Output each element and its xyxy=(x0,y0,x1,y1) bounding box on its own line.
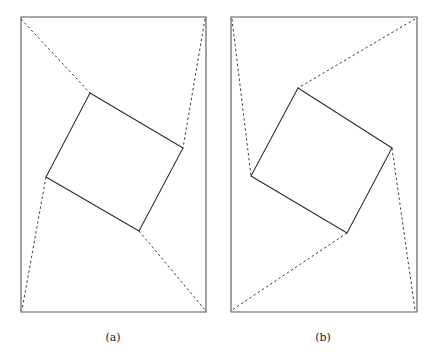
figure-container: (a) (b) xyxy=(0,0,438,358)
panel-a: (a) xyxy=(21,17,206,344)
panel-a-caption: (a) xyxy=(105,331,120,344)
panel-b-caption: (b) xyxy=(315,331,331,344)
panel-b-fold-top-left xyxy=(232,19,251,176)
panel-a-fold-bottom-left xyxy=(22,177,46,310)
panel-a-fold-bottom-right xyxy=(139,231,205,310)
panel-a-inscribed-square xyxy=(46,93,183,231)
panel-a-fold-top-right xyxy=(183,19,205,148)
panel-b-fold-top-right xyxy=(298,19,415,88)
panel-a-fold-top-left xyxy=(21,19,90,93)
panel-b-fold-bottom-right xyxy=(392,148,415,310)
panel-b-fold-bottom-left xyxy=(232,233,347,310)
figure-canvas: (a) (b) xyxy=(0,0,438,358)
panel-b-paper-sheet-outline xyxy=(231,17,417,312)
panel-a-paper-sheet-outline xyxy=(21,17,206,312)
panel-b-inscribed-square xyxy=(251,88,392,233)
panel-b: (b) xyxy=(231,17,417,344)
